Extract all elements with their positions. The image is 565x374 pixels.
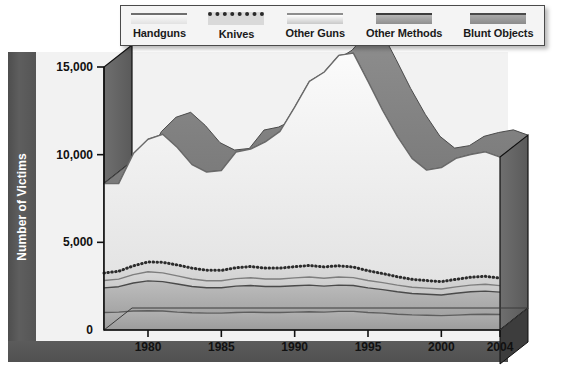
legend-item-handguns[interactable]: Handguns	[127, 13, 191, 39]
legend-label-knives: Knives	[219, 28, 254, 40]
blunt-objects-swatch-icon	[470, 13, 526, 24]
plot-area: 05,00010,00015,000 198019851990199520002…	[36, 52, 508, 341]
y-tick-label: 5,000	[63, 235, 93, 249]
legend-label-other-guns: Other Guns	[285, 27, 345, 39]
x-tick-label: 1990	[281, 340, 308, 354]
knives-swatch-icon	[208, 12, 264, 25]
y-tick-label: 10,000	[56, 148, 93, 162]
legend-item-knives[interactable]: Knives	[204, 12, 268, 40]
y-tick-label: 0	[86, 323, 93, 337]
y-tick-label: 15,000	[56, 60, 93, 74]
x-tick-label: 1985	[208, 340, 235, 354]
frame-left-band	[8, 52, 36, 362]
handguns-swatch-icon	[131, 13, 187, 24]
legend: Handguns Knives Other Guns Other Methods…	[120, 5, 545, 46]
x-tick-label: 2000	[428, 340, 455, 354]
other-guns-swatch-icon	[287, 13, 343, 24]
legend-item-other-methods[interactable]: Other Methods	[362, 13, 446, 39]
legend-label-blunt-objects: Blunt Objects	[463, 27, 533, 39]
legend-label-other-methods: Other Methods	[366, 27, 442, 39]
chart-svg	[36, 52, 508, 341]
legend-item-blunt-objects[interactable]: Blunt Objects	[459, 13, 537, 39]
legend-label-handguns: Handguns	[133, 27, 186, 39]
legend-item-other-guns[interactable]: Other Guns	[281, 13, 349, 39]
x-tick-label: 1995	[355, 340, 382, 354]
chart-root: Number of Victims 05,00010,00015,000 198…	[0, 0, 565, 374]
x-tick-label: 2004	[487, 340, 514, 354]
other-methods-swatch-icon	[376, 13, 432, 24]
x-tick-label: 1980	[135, 340, 162, 354]
